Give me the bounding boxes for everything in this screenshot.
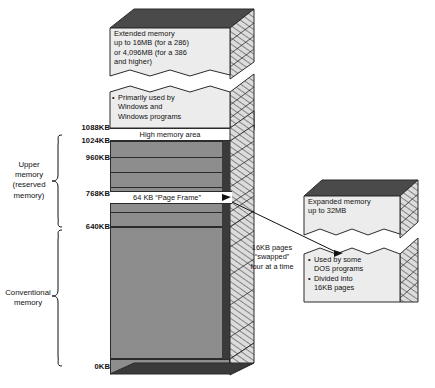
extended-memory-text: Extended memory up to 16MB (for a 286) o… bbox=[114, 29, 236, 66]
region-label-conventional-memory: Conventional memory bbox=[2, 288, 54, 308]
band-divider bbox=[111, 172, 229, 173]
tick-1088kb: 1088KB bbox=[58, 123, 110, 132]
band-divider bbox=[111, 157, 229, 158]
upper-memory-column bbox=[110, 141, 230, 227]
expanded-notes-arrowhead bbox=[334, 248, 346, 258]
page-frame-arrowhead bbox=[222, 193, 234, 203]
high-memory-area-band: High memory area bbox=[110, 128, 230, 141]
page-frame-leader-line bbox=[228, 196, 348, 256]
page-frame-band: 64 KB “Page Frame” bbox=[110, 191, 232, 204]
band-divider bbox=[111, 212, 229, 213]
high-memory-area-label: High memory area bbox=[110, 129, 230, 141]
memory-map-diagram: Extended memory up to 16MB (for a 286) o… bbox=[0, 0, 435, 388]
region-label-upper-memory: Upper memory (reserved memory) bbox=[6, 160, 52, 201]
column-bottom-face bbox=[110, 352, 262, 382]
page-frame-label: 64 KB “Page Frame” bbox=[110, 192, 232, 204]
expanded-notes-text: •Used by some DOS programs •Divided into… bbox=[308, 255, 404, 293]
band-divider bbox=[111, 187, 229, 188]
conventional-memory-column bbox=[110, 227, 230, 359]
windows-usage-text: •Primarily used by Windows and Windows p… bbox=[112, 93, 236, 121]
upper-memory-brace bbox=[50, 133, 68, 231]
